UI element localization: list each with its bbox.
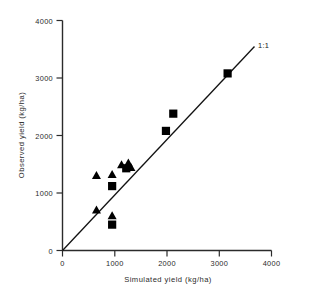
data-point-square [162, 127, 170, 135]
data-point-square [169, 110, 177, 118]
plot-svg: 4000 3000 2000 1000 0 0 1000 2000 3000 4… [0, 0, 314, 298]
y-tick-label-4000: 4000 [35, 17, 53, 26]
data-point-square [122, 164, 130, 172]
x-tick-label-1000: 1000 [106, 259, 124, 268]
x-axis: 0 1000 2000 3000 4000 [60, 251, 280, 269]
y-tick-label-2000: 2000 [35, 132, 53, 141]
y-axis: 4000 3000 2000 1000 0 [35, 17, 62, 256]
y-tick-label-3000: 3000 [35, 74, 53, 83]
x-tick-label-4000: 4000 [263, 259, 281, 268]
y-tick-label-0: 0 [49, 247, 53, 256]
y-tick-label-1000: 1000 [35, 189, 53, 198]
x-tick-label-2000: 2000 [158, 259, 176, 268]
x-tick-label-0: 0 [60, 259, 64, 268]
data-point-square [108, 221, 116, 229]
x-axis-title: Simulated yield (kg/ha) [124, 275, 212, 284]
data-point-triangle [108, 211, 117, 219]
scatter-plot-figure: 4000 3000 2000 1000 0 0 1000 2000 3000 4… [0, 0, 314, 298]
data-point-square [224, 69, 232, 77]
data-point-triangle [92, 171, 101, 179]
one-to-one-label: 1:1 [258, 41, 269, 50]
y-axis-title: Observed yield (kg/ha) [17, 92, 26, 178]
data-point-triangle [108, 170, 117, 178]
x-tick-label-3000: 3000 [210, 259, 228, 268]
data-point-triangle [92, 206, 101, 214]
data-point-square [108, 182, 116, 190]
